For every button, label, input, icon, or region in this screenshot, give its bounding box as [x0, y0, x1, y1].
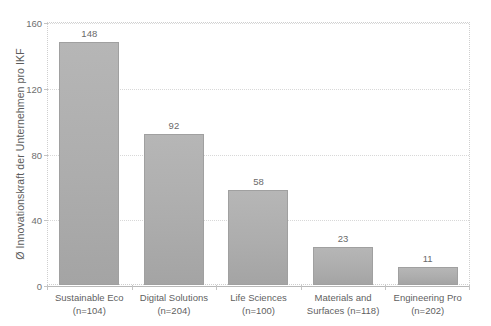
- y-tick-label: 160: [12, 18, 42, 29]
- bar-slot[interactable]: 92: [132, 22, 217, 285]
- x-axis-category-label-line: (n=100): [216, 305, 301, 318]
- x-axis-category-label-line: (n=104): [47, 305, 132, 318]
- y-tick-label: 0: [12, 281, 42, 292]
- x-axis-category-label-line: (n=202): [385, 305, 470, 318]
- x-axis-category-label: Engineering Pro(n=202): [385, 292, 470, 317]
- x-axis-category-label: Sustainable Eco(n=104): [47, 292, 132, 317]
- x-axis-category-label-line: Engineering Pro: [385, 292, 470, 305]
- bar-value-label: 11: [423, 253, 433, 264]
- bars-layer: 14892582311: [47, 22, 470, 285]
- x-axis-ticks: [47, 285, 470, 290]
- x-axis-labels: Sustainable Eco(n=104)Digital Solutions(…: [47, 292, 470, 317]
- x-axis-category-label-line: Surfaces (n=118): [301, 305, 386, 318]
- bar-value-label: 148: [81, 28, 97, 39]
- bar-slot[interactable]: 148: [47, 22, 132, 285]
- bar-slot[interactable]: 23: [301, 22, 386, 285]
- bar-chart: Ø Innovationskraft der Unternehmen pro I…: [0, 0, 491, 326]
- x-axis-category-label: Materials andSurfaces (n=118): [301, 292, 386, 317]
- x-axis-category-label-line: Sustainable Eco: [47, 292, 132, 305]
- x-axis-category-label: Life Sciences(n=100): [216, 292, 301, 317]
- y-tick-label: 80: [12, 149, 42, 160]
- x-tick-mark: [469, 285, 470, 290]
- x-axis-category-label-line: Materials and: [301, 292, 386, 305]
- x-tick-mark: [132, 285, 133, 290]
- x-tick-mark: [216, 285, 217, 290]
- x-axis-category-label-line: Digital Solutions: [132, 292, 217, 305]
- bar-slot[interactable]: 11: [385, 22, 470, 285]
- bar-value-label: 92: [169, 120, 180, 131]
- y-tick-label: 120: [12, 83, 42, 94]
- bar-value-label: 23: [338, 233, 349, 244]
- bar[interactable]: [228, 190, 288, 285]
- y-tick-label: 40: [12, 215, 42, 226]
- bar[interactable]: [313, 247, 373, 285]
- bar[interactable]: [144, 134, 204, 285]
- x-axis-category-label-line: (n=204): [132, 305, 217, 318]
- x-axis-category-label: Digital Solutions(n=204): [132, 292, 217, 317]
- x-tick-mark: [301, 285, 302, 290]
- x-tick-mark: [47, 285, 48, 290]
- x-axis-category-label-line: Life Sciences: [216, 292, 301, 305]
- x-tick-mark: [385, 285, 386, 290]
- bar-slot[interactable]: 58: [216, 22, 301, 285]
- bar[interactable]: [59, 42, 119, 285]
- bar-value-label: 58: [253, 176, 264, 187]
- bar[interactable]: [398, 267, 458, 285]
